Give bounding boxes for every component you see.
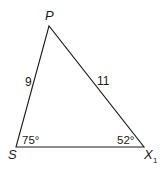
side-label-ps: 9: [25, 75, 32, 89]
vertex-label-s: S: [8, 147, 17, 162]
side-label-px1: 11: [97, 74, 110, 88]
angle-label-x1: 52°: [117, 134, 134, 146]
triangle-diagram: P S X 1 9 11 75° 52°: [0, 0, 160, 171]
angle-label-s: 75°: [22, 134, 39, 146]
triangle-psx1: [16, 26, 144, 147]
vertex-label-x-subscript: 1: [153, 156, 158, 165]
vertex-label-p: P: [45, 8, 54, 23]
